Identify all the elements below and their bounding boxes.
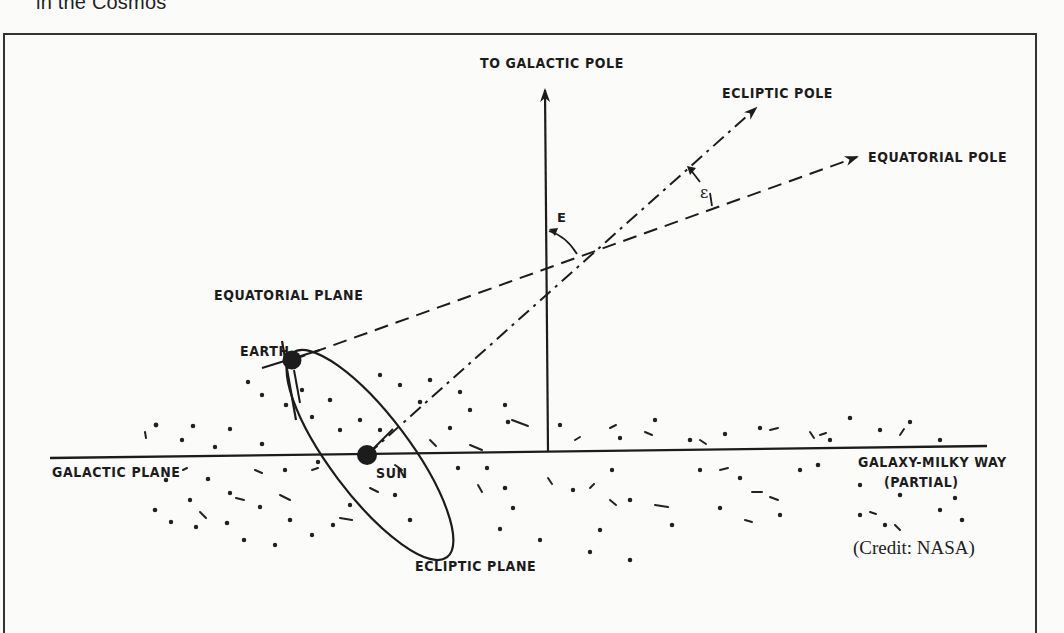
equatorial-pole-axis [292,157,857,360]
label-ecliptic-pole: ECLIPTIC POLE [722,85,833,101]
milky-way-star-field [145,374,963,562]
galactic-plane-line [50,446,987,458]
label-equatorial-plane: EQUATORIAL PLANE [214,287,363,303]
label-galaxy-partial: (PARTIAL) [884,474,959,490]
figure-credit: (Credit: NASA) [853,537,975,559]
label-earth: EARTH [240,343,290,359]
label-equatorial-pole: EQUATORIAL POLE [868,149,1007,165]
label-angle-epsilon: ε [700,183,708,202]
label-galaxy-milky-way: GALAXY-MILKY WAY [858,454,1007,470]
label-angle-e: E [557,210,566,225]
label-ecliptic-plane: ECLIPTIC PLANE [415,558,536,574]
earth-axis-lower [294,370,300,403]
ecliptic-pole-axis [367,108,756,455]
label-galactic-pole: TO GALACTIC POLE [480,55,624,71]
label-sun: SUN [376,465,408,481]
label-galactic-plane: GALACTIC PLANE [52,464,181,480]
angle-epsilon-tick [710,193,712,206]
sun-body [357,445,377,465]
galactic-pole-axis [545,90,548,452]
angle-e-arc [549,231,577,254]
